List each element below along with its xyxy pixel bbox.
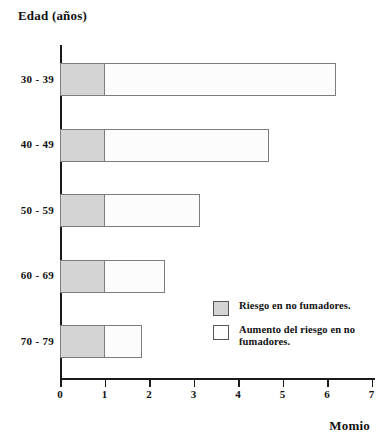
legend-label: Riesgo en no fumadores. — [239, 300, 351, 312]
bar-segment-increase — [104, 194, 201, 227]
category-label: 40 - 49 — [8, 138, 54, 150]
bar-segment-increase — [104, 260, 165, 293]
legend-label: Aumento del riesgo en no fumadores. — [239, 324, 378, 348]
x-axis-tick-label: 6 — [317, 388, 337, 400]
legend-swatch — [213, 325, 229, 340]
bar-row — [60, 260, 165, 293]
odds-ratio-bar-chart: Edad (años) 30 - 3940 - 4950 - 5960 - 69… — [0, 0, 382, 442]
x-axis-tick — [372, 380, 374, 387]
x-axis-tick-label: 5 — [273, 388, 293, 400]
x-axis-tick — [194, 380, 196, 387]
x-axis-title: Momio — [329, 418, 370, 434]
bar-segment-base — [60, 63, 105, 96]
bar-row — [60, 325, 142, 358]
x-axis-tick — [327, 380, 329, 387]
bar-segment-base — [60, 325, 105, 358]
x-axis-tick-label: 1 — [95, 388, 115, 400]
bar-segment-base — [60, 194, 105, 227]
bar-segment-base — [60, 260, 105, 293]
x-axis-tick-label: 3 — [184, 388, 204, 400]
bar-segment-base — [60, 129, 105, 162]
category-label: 50 - 59 — [8, 204, 54, 216]
bar-segment-increase — [104, 129, 270, 162]
x-axis-tick — [149, 380, 151, 387]
bar-segment-increase — [104, 63, 336, 96]
y-axis-title: Edad (años) — [18, 8, 87, 24]
bar-row — [60, 129, 269, 162]
x-axis-tick-label: 0 — [50, 388, 70, 400]
x-axis-tick-label: 2 — [139, 388, 159, 400]
category-label: 60 - 69 — [8, 269, 54, 281]
x-axis-tick — [105, 380, 107, 387]
legend-item: Aumento del riesgo en no fumadores. — [213, 324, 378, 348]
category-label: 70 - 79 — [8, 335, 54, 347]
bar-row — [60, 194, 200, 227]
x-axis-tick — [238, 380, 240, 387]
legend-swatch — [213, 301, 229, 316]
bar-segment-increase — [104, 325, 143, 358]
chart-legend: Riesgo en no fumadores.Aumento del riesg… — [213, 300, 378, 356]
x-axis-tick-label: 7 — [362, 388, 382, 400]
x-axis-tick — [60, 380, 62, 387]
bar-row — [60, 63, 336, 96]
category-label: 30 - 39 — [8, 73, 54, 85]
legend-item: Riesgo en no fumadores. — [213, 300, 378, 316]
x-axis-tick-label: 4 — [228, 388, 248, 400]
x-axis-tick — [283, 380, 285, 387]
